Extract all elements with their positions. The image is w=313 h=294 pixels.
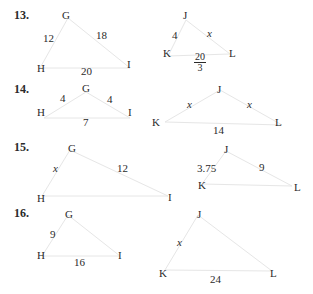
side-gh: x xyxy=(53,163,58,174)
problem-number: 13. xyxy=(14,9,29,21)
vertex-l: L xyxy=(275,117,282,128)
vertex-g: G xyxy=(62,10,70,21)
problem-number: 14. xyxy=(14,83,29,95)
vertex-i: I xyxy=(128,107,132,118)
vertex-l: L xyxy=(270,268,277,279)
problem-number: 15. xyxy=(14,141,29,153)
side-jk: 4 xyxy=(172,30,178,41)
fraction-denominator: 3 xyxy=(194,63,206,73)
vertex-g: G xyxy=(82,83,90,94)
side-kl: 14 xyxy=(213,125,224,136)
side-hi: 20 xyxy=(81,66,92,77)
side-kl: 24 xyxy=(210,274,221,285)
problem-number: 16. xyxy=(14,207,29,219)
vertex-k: K xyxy=(152,117,160,128)
side-gi: 4 xyxy=(107,94,113,105)
vertex-i: I xyxy=(118,250,122,261)
vertex-h: H xyxy=(37,250,45,261)
side-jl: x xyxy=(247,99,252,110)
vertex-k: K xyxy=(198,180,206,191)
vertex-h: H xyxy=(37,107,45,118)
side-hi: 16 xyxy=(74,257,85,268)
side-jk: 3.75 xyxy=(197,163,216,174)
side-jk: x xyxy=(187,99,192,110)
vertex-g: G xyxy=(68,143,76,154)
vertex-h: H xyxy=(37,63,45,74)
vertex-l: L xyxy=(229,48,236,59)
vertex-j: J xyxy=(183,10,187,21)
vertex-l: L xyxy=(294,182,301,193)
vertex-k: K xyxy=(159,268,167,279)
vertex-g: G xyxy=(65,209,73,220)
side-gi: 18 xyxy=(96,30,107,41)
side-gh: 9 xyxy=(50,229,56,240)
side-kl-fraction: 20 3 xyxy=(194,52,206,73)
side-hi: 7 xyxy=(83,117,89,128)
side-jk: x xyxy=(177,237,182,248)
vertex-j: J xyxy=(217,84,221,95)
vertex-j: J xyxy=(197,209,201,220)
side-jl: x xyxy=(207,28,212,39)
vertex-h: H xyxy=(37,193,45,204)
vertex-i: I xyxy=(127,59,131,70)
vertex-j: J xyxy=(224,144,228,155)
side-gh: 4 xyxy=(60,93,66,104)
vertex-k: K xyxy=(163,48,171,59)
vertex-i: I xyxy=(168,192,172,203)
side-jl: 9 xyxy=(259,162,265,173)
triangle-lines xyxy=(0,0,313,294)
side-gi: 12 xyxy=(117,163,128,174)
side-gh: 12 xyxy=(43,33,54,44)
